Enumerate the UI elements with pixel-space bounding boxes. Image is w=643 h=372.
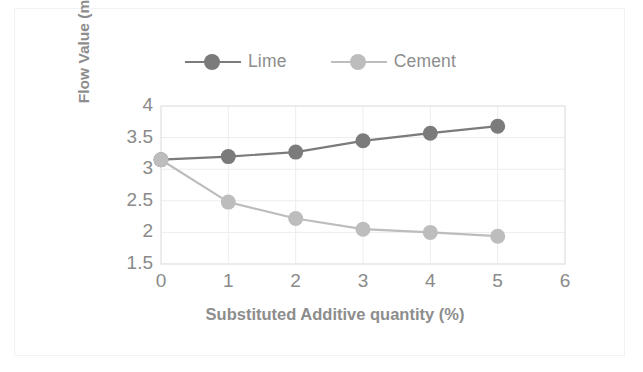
data-point-cement-4[interactable] [423, 225, 438, 240]
x-tick-label: 5 [483, 270, 513, 292]
x-tick-label: 4 [415, 270, 445, 292]
data-point-lime-3[interactable] [356, 133, 371, 148]
y-tick-label: 4 [109, 94, 153, 116]
x-tick-label: 0 [146, 270, 176, 292]
chart-figure: Lime Cement Flow Value (mm) 1.522.533.54… [14, 8, 625, 356]
x-tick-label: 2 [281, 270, 311, 292]
data-point-cement-1[interactable] [221, 195, 236, 210]
x-axis-title: Substituted Additive quantity (%) [95, 305, 575, 324]
data-point-lime-1[interactable] [221, 149, 236, 164]
data-point-cement-0[interactable] [154, 152, 169, 167]
x-tick-label: 1 [213, 270, 243, 292]
y-tick-label: 2.5 [109, 189, 153, 211]
y-tick-label: 3.5 [109, 126, 153, 148]
data-point-lime-2[interactable] [288, 145, 303, 160]
data-point-cement-5[interactable] [490, 229, 505, 244]
data-point-lime-5[interactable] [490, 119, 505, 134]
series-line-lime [161, 126, 498, 160]
data-point-cement-3[interactable] [356, 222, 371, 237]
x-tick-label: 3 [348, 270, 378, 292]
series-line-cement [161, 160, 498, 237]
x-tick-label: 6 [550, 270, 580, 292]
data-point-lime-4[interactable] [423, 126, 438, 141]
y-tick-label: 2 [109, 220, 153, 242]
y-tick-label: 3 [109, 157, 153, 179]
data-point-cement-2[interactable] [288, 211, 303, 226]
